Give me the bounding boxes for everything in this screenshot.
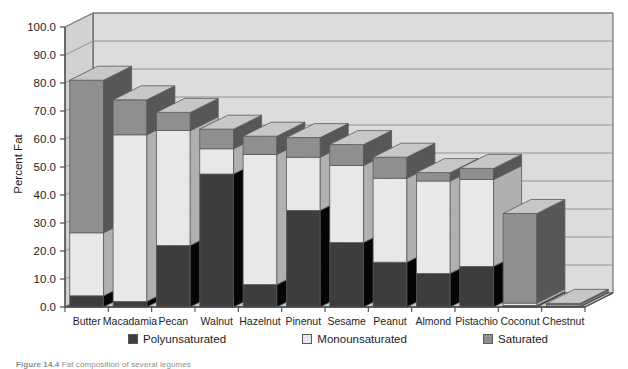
bar-segment xyxy=(373,262,407,307)
bar-segment xyxy=(416,181,450,273)
bar-segment xyxy=(70,80,104,233)
y-axis-title: Percent Fat xyxy=(12,133,24,193)
x-tick-label: Chestnut xyxy=(542,315,584,327)
x-tick-label: Hazelnut xyxy=(239,315,281,327)
x-tick-label: Macadamia xyxy=(103,315,157,327)
bar-segment xyxy=(416,273,450,307)
x-tick-label: Peanut xyxy=(373,315,406,327)
caption-prefix: Figure 14.4 xyxy=(16,360,59,369)
legend-label-polyunsaturated: Polyunsaturated xyxy=(143,333,226,345)
y-tick-label: 20.0 xyxy=(34,245,56,257)
bar-segment xyxy=(200,149,234,174)
bar-segment xyxy=(156,131,190,246)
bar-segment xyxy=(373,178,407,262)
bar-segment xyxy=(286,157,320,210)
x-tick-label: Walnut xyxy=(201,315,233,327)
bar-segment xyxy=(286,138,320,158)
legend-item-polyunsaturated: Polyunsaturated xyxy=(128,333,226,345)
stacked-bar-chart: 0.010.020.030.040.050.060.070.080.090.01… xyxy=(0,0,628,369)
bar-segment xyxy=(330,166,364,243)
y-tick-label: 60.0 xyxy=(34,133,56,145)
bar-segment xyxy=(243,285,277,307)
y-tick-label: 80.0 xyxy=(34,77,56,89)
caption-text: Fat composition of several legumes xyxy=(62,360,191,369)
bar-segment xyxy=(70,233,104,296)
bar-segment xyxy=(416,173,450,181)
bar-segment xyxy=(200,129,234,149)
bar-segment xyxy=(113,135,147,302)
bar-segment xyxy=(156,245,190,307)
legend-label-saturated: Saturated xyxy=(498,333,548,345)
bar-segment xyxy=(113,301,147,307)
bar-segment xyxy=(243,136,277,154)
y-tick-label: 50.0 xyxy=(34,161,56,173)
legend-swatch-monounsaturated xyxy=(302,334,312,344)
figure-caption: Figure 14.4 Fat composition of several l… xyxy=(16,360,191,369)
x-tick-label: Butter xyxy=(73,315,102,327)
x-tick-label: Sesame xyxy=(327,315,366,327)
bar-segment xyxy=(373,157,407,178)
legend-item-saturated: Saturated xyxy=(483,333,548,345)
bar-segment xyxy=(460,180,494,267)
bar-segment xyxy=(286,210,320,307)
y-tick-label: 0.0 xyxy=(40,301,56,313)
bar-segment xyxy=(460,266,494,307)
bar-segment xyxy=(113,100,147,135)
y-tick-label: 100.0 xyxy=(27,21,56,33)
y-tick-label: 40.0 xyxy=(34,189,56,201)
legend-swatch-polyunsaturated xyxy=(128,334,138,344)
bar-segment xyxy=(156,112,190,130)
y-tick-label: 90.0 xyxy=(34,49,56,61)
x-tick-label: Pecan xyxy=(158,315,188,327)
bar-segment xyxy=(460,168,494,179)
bar-segment xyxy=(503,213,537,303)
y-tick-label: 10.0 xyxy=(34,273,56,285)
x-axis-ticks: ButterMacadamiaPecanWalnutHazelnutPinenu… xyxy=(65,307,585,327)
y-tick-label: 70.0 xyxy=(34,105,56,117)
bar-segment xyxy=(330,243,364,307)
x-tick-label: Coconut xyxy=(500,315,539,327)
bar-segment xyxy=(330,145,364,166)
legend-item-monounsaturated: Monounsaturated xyxy=(302,333,407,345)
y-tick-label: 30.0 xyxy=(34,217,56,229)
bar-segment-side xyxy=(537,199,565,303)
x-tick-label: Pistachio xyxy=(455,315,498,327)
figure-container: 0.010.020.030.040.050.060.070.080.090.01… xyxy=(0,0,628,369)
chart-legend: Polyunsaturated Monounsaturated Saturate… xyxy=(128,331,548,347)
legend-swatch-saturated xyxy=(483,334,493,344)
bar-segment xyxy=(70,296,104,307)
legend-label-monounsaturated: Monounsaturated xyxy=(317,333,407,345)
x-tick-label: Almond xyxy=(416,315,452,327)
bar-segment xyxy=(200,174,234,307)
x-tick-label: Pinenut xyxy=(286,315,322,327)
y-axis-ticks: 0.010.020.030.040.050.060.070.080.090.01… xyxy=(27,21,65,313)
bar-segment xyxy=(243,154,277,284)
